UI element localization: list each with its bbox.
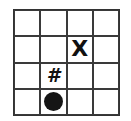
grid-cell-r0-c0 <box>14 10 40 36</box>
grid-cell-r0-c1 <box>40 10 66 36</box>
grid-cell-r1-c3 <box>93 36 119 62</box>
grid-cell-r3-c1 <box>40 89 66 115</box>
grid-cell-r0-c3 <box>93 10 119 36</box>
grid-cell-r1-c0 <box>14 36 40 62</box>
grid-cell-r2-c1: # <box>40 63 66 89</box>
filled-circle-icon <box>44 92 63 111</box>
hash-marker: # <box>47 66 60 85</box>
grid-cell-r1-c2: X <box>67 36 93 62</box>
grid-cell-r2-c0 <box>14 63 40 89</box>
grid-cell-r1-c1 <box>40 36 66 62</box>
grid-cell-r0-c2 <box>67 10 93 36</box>
x-marker: X <box>71 38 88 60</box>
grid-cell-r2-c3 <box>93 63 119 89</box>
grid-cell-r3-c2 <box>67 89 93 115</box>
grid-cell-r3-c0 <box>14 89 40 115</box>
grid-cell-r3-c3 <box>93 89 119 115</box>
grid-board: X # <box>13 9 120 116</box>
grid-cell-r2-c2 <box>67 63 93 89</box>
